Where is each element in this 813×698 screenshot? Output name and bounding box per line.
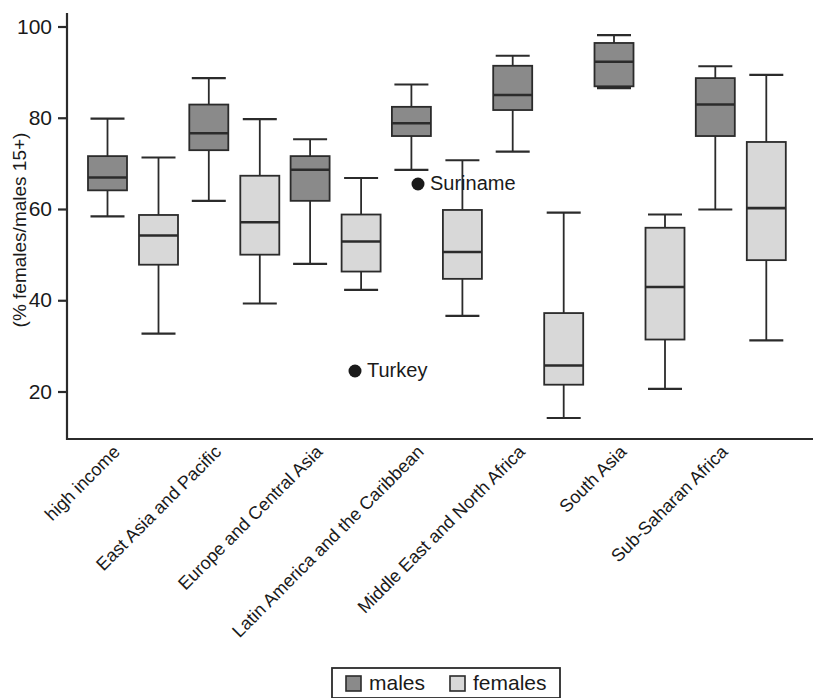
- y-axis-tick-label: 60: [29, 197, 52, 220]
- legend-swatch-males: [346, 676, 361, 691]
- x-axis-category-label-4: Middle East and North Africa: [354, 441, 530, 617]
- box-males-0: [88, 156, 127, 190]
- annotation-point-1: [349, 365, 362, 378]
- y-axis-tick-label: 80: [29, 106, 52, 129]
- boxplot-svg: 20406080100(% females/males 15+)high inc…: [0, 0, 813, 698]
- x-axis-category-label-3: Latin America and the Caribbean: [228, 442, 428, 642]
- box-females-4: [544, 313, 583, 385]
- boxplot-figure: 20406080100(% females/males 15+)high inc…: [0, 0, 813, 698]
- y-axis-tick-label: 40: [29, 288, 52, 311]
- y-axis-tick-label: 100: [17, 15, 52, 38]
- box-males-6: [696, 78, 735, 136]
- box-males-1: [189, 105, 228, 151]
- box-females-5: [646, 228, 685, 340]
- x-axis-category-label-5: South Asia: [555, 441, 631, 517]
- box-females-0: [139, 215, 178, 265]
- annotation-label-1: Turkey: [367, 359, 427, 381]
- box-females-1: [240, 176, 279, 255]
- box-males-5: [595, 43, 634, 86]
- box-females-2: [342, 215, 381, 272]
- box-females-6: [747, 142, 786, 260]
- box-males-3: [392, 107, 431, 136]
- box-males-4: [493, 66, 532, 110]
- box-males-2: [291, 156, 330, 201]
- legend-swatch-females: [450, 676, 465, 691]
- annotation-label-0: Suriname: [430, 172, 516, 194]
- legend-label-males: males: [369, 671, 425, 694]
- legend-label-females: females: [473, 671, 547, 694]
- annotation-point-0: [412, 178, 425, 191]
- y-axis-title: (% females/males 15+): [9, 133, 30, 328]
- box-females-3: [443, 210, 482, 279]
- x-axis-category-label-0: high income: [41, 442, 124, 525]
- y-axis-tick-label: 20: [29, 380, 52, 403]
